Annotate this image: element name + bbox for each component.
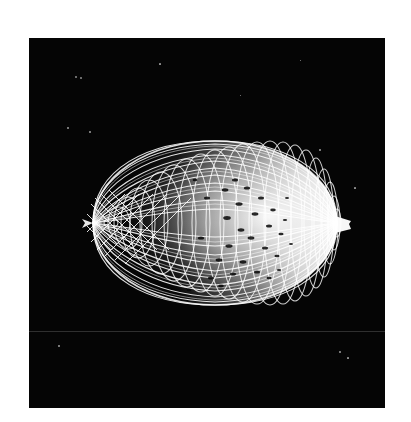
page-root (0, 0, 411, 422)
far-side-saturation (29, 38, 385, 408)
wireframe-ellipsoid-svg (29, 38, 385, 408)
render-viewport (29, 38, 385, 408)
mesh-group (29, 38, 385, 408)
right-pole-tip (335, 216, 351, 233)
